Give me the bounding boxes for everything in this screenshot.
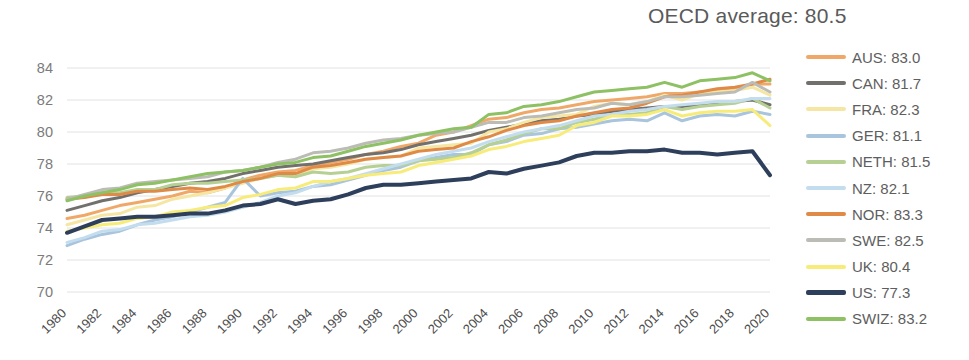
legend-swatch-icon <box>806 212 846 216</box>
y-tick-label: 84 <box>37 60 53 76</box>
series-line-ger <box>67 111 770 245</box>
legend-swatch-icon <box>806 186 846 190</box>
x-axis-tick-labels: 1980198219841986198819901992199419961998… <box>38 306 772 337</box>
legend-item-swe[interactable]: SWE: 82.5 <box>806 227 969 253</box>
legend-item-us[interactable]: US: 77.3 <box>806 280 969 306</box>
legend-label: CAN: 81.7 <box>852 75 921 92</box>
x-tick-label: 1982 <box>73 306 104 337</box>
legend-label: SWIZ: 83.2 <box>852 310 927 327</box>
x-tick-label: 2018 <box>706 306 737 337</box>
x-tick-label: 1994 <box>284 306 315 337</box>
x-tick-label: 1988 <box>179 306 210 337</box>
legend-item-nor[interactable]: NOR: 83.3 <box>806 201 969 227</box>
legend-label: US: 77.3 <box>852 284 910 301</box>
x-tick-label: 1992 <box>249 306 280 337</box>
legend-label: NOR: 83.3 <box>852 206 923 223</box>
legend-label: FRA: 82.3 <box>852 101 920 118</box>
legend-item-fra[interactable]: FRA: 82.3 <box>806 96 969 122</box>
x-tick-label: 1996 <box>319 306 350 337</box>
legend-item-nz[interactable]: NZ: 82.1 <box>806 175 969 201</box>
legend-item-neth[interactable]: NETH: 81.5 <box>806 149 969 175</box>
y-tick-label: 72 <box>37 252 53 268</box>
legend-item-aus[interactable]: AUS: 83.0 <box>806 44 969 70</box>
y-tick-label: 80 <box>37 124 53 140</box>
y-axis-tick-labels: 7072747678808284 <box>37 60 53 300</box>
chart-root: OECD average: 80.5 7072747678808284 1980… <box>0 0 969 360</box>
legend-label: AUS: 83.0 <box>852 49 920 66</box>
legend-label: GER: 81.1 <box>852 127 922 144</box>
legend-swatch-icon <box>806 238 846 242</box>
legend-item-uk[interactable]: UK: 80.4 <box>806 254 969 280</box>
y-tick-label: 78 <box>37 156 53 172</box>
x-tick-label: 2008 <box>530 306 561 337</box>
x-tick-label: 1990 <box>214 306 245 337</box>
legend-swatch-icon <box>806 81 846 85</box>
legend-label: NZ: 82.1 <box>852 180 910 197</box>
x-tick-label: 2020 <box>741 306 772 337</box>
x-tick-label: 2000 <box>390 306 421 337</box>
x-tick-label: 1998 <box>354 306 385 337</box>
x-tick-label: 2004 <box>460 306 491 337</box>
legend-item-swiz[interactable]: SWIZ: 83.2 <box>806 306 969 332</box>
x-tick-label: 2014 <box>636 306 667 337</box>
legend-item-can[interactable]: CAN: 81.7 <box>806 70 969 96</box>
y-tick-label: 76 <box>37 188 53 204</box>
series-line-uk <box>67 110 770 232</box>
y-tick-label: 82 <box>37 92 53 108</box>
legend-swatch-icon <box>806 107 846 111</box>
x-tick-label: 2012 <box>600 306 631 337</box>
x-tick-label: 2006 <box>495 306 526 337</box>
y-tick-label: 70 <box>37 284 53 300</box>
legend-label: UK: 80.4 <box>852 258 910 275</box>
legend-swatch-icon <box>806 134 846 138</box>
x-tick-label: 2016 <box>671 306 702 337</box>
x-tick-label: 1986 <box>144 306 175 337</box>
series-lines-group <box>67 73 770 246</box>
series-line-nz <box>67 98 770 242</box>
legend-swatch-icon <box>806 265 846 269</box>
x-tick-label: 2002 <box>425 306 456 337</box>
legend-item-ger[interactable]: GER: 81.1 <box>806 123 969 149</box>
y-tick-label: 74 <box>37 220 53 236</box>
x-tick-label: 1980 <box>38 306 69 337</box>
legend-label: NETH: 81.5 <box>852 153 930 170</box>
x-tick-label: 1984 <box>108 306 139 337</box>
x-tick-label: 2010 <box>565 306 596 337</box>
legend-label: SWE: 82.5 <box>852 232 924 249</box>
legend-swatch-icon <box>806 160 846 164</box>
legend-swatch-icon <box>806 290 846 295</box>
series-line-can <box>67 100 770 210</box>
legend-swatch-icon <box>806 317 846 321</box>
legend-swatch-icon <box>806 55 846 59</box>
chart-legend: AUS: 83.0CAN: 81.7FRA: 82.3GER: 81.1NETH… <box>806 44 969 332</box>
